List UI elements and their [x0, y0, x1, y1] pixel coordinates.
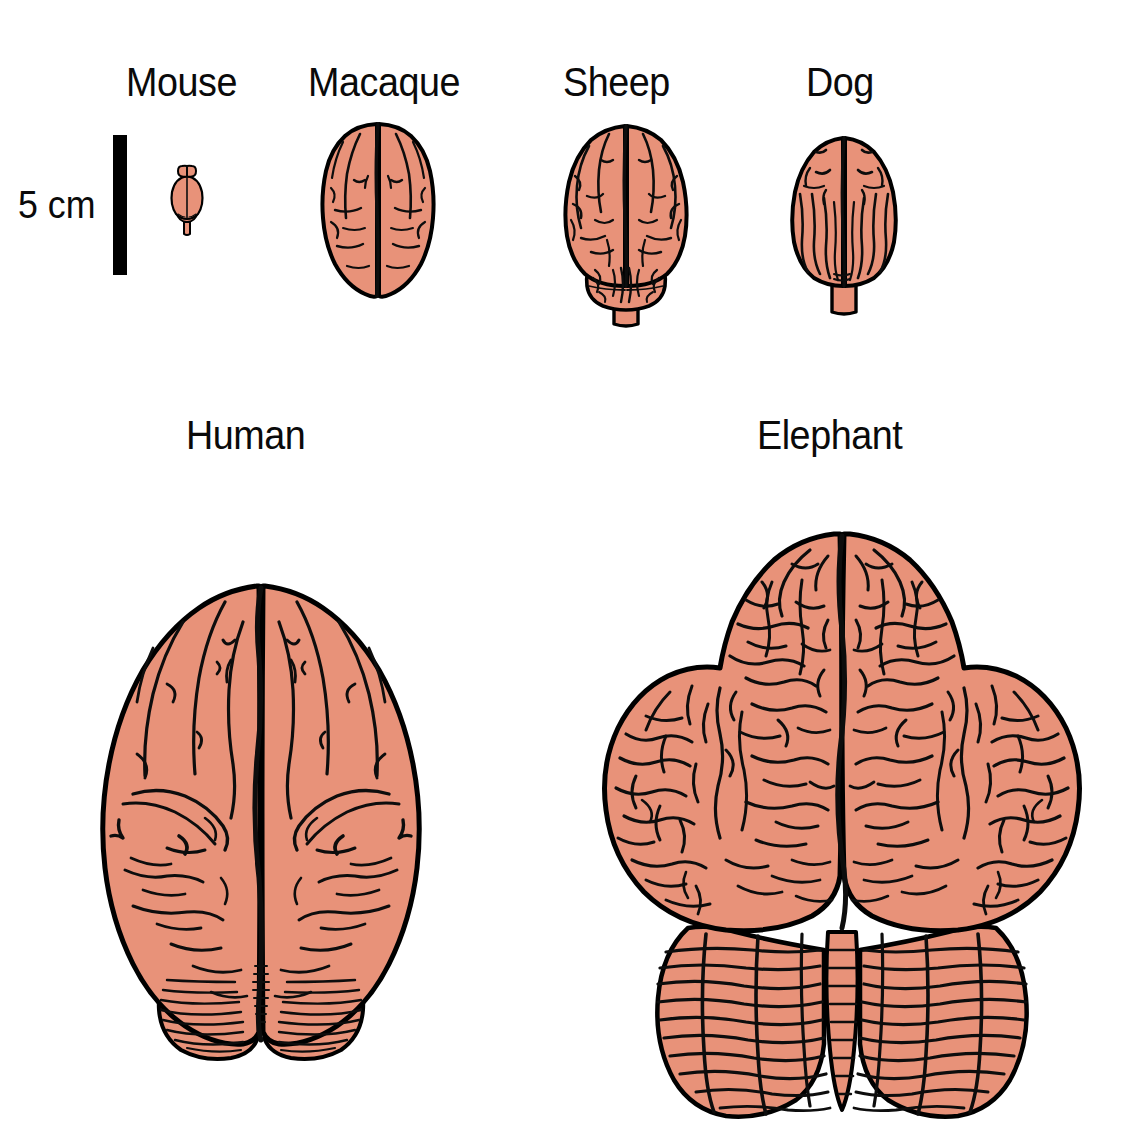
brain-illustration-human	[75, 578, 447, 1078]
species-label-sheep: Sheep	[563, 62, 670, 103]
brain-illustration-dog	[782, 132, 906, 318]
comparative-brain-figure: 5 cm Mouse Macaque Sheep Dog Human Eleph…	[0, 0, 1124, 1142]
brain-illustration-elephant	[596, 520, 1088, 1122]
species-label-human: Human	[186, 415, 305, 456]
scale-bar	[113, 135, 127, 275]
species-label-elephant: Elephant	[757, 415, 902, 456]
scale-bar-label: 5 cm	[18, 186, 95, 224]
species-label-dog: Dog	[806, 62, 874, 103]
brain-illustration-sheep	[551, 120, 701, 330]
species-label-macaque: Macaque	[308, 62, 460, 103]
brain-illustration-mouse	[163, 160, 211, 238]
brain-illustration-macaque	[313, 118, 443, 303]
species-label-mouse: Mouse	[126, 62, 237, 103]
